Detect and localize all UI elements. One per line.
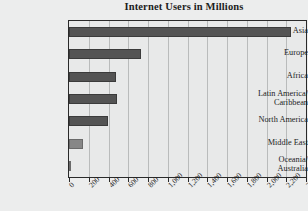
bar-chart: Internet Users in Millions AsiaEuropeAfr… xyxy=(0,0,308,211)
category-label: Latin America/ Caribbean xyxy=(242,89,308,107)
category-label: North America xyxy=(242,115,308,124)
category-label: Middle East xyxy=(242,138,308,147)
bar[interactable] xyxy=(69,139,83,149)
category-label: Europe xyxy=(242,48,308,57)
category-label: Asia xyxy=(242,26,308,35)
bar[interactable] xyxy=(69,161,71,171)
bar[interactable] xyxy=(69,72,116,82)
category-label: Oceania/ Australia xyxy=(242,155,308,173)
chart-title: Internet Users in Millions xyxy=(60,1,308,12)
category-label: Africa xyxy=(242,71,308,80)
bar[interactable] xyxy=(69,116,108,126)
axis-tick-label: 0 xyxy=(67,180,76,189)
bar[interactable] xyxy=(69,49,141,59)
bar[interactable] xyxy=(69,94,117,104)
